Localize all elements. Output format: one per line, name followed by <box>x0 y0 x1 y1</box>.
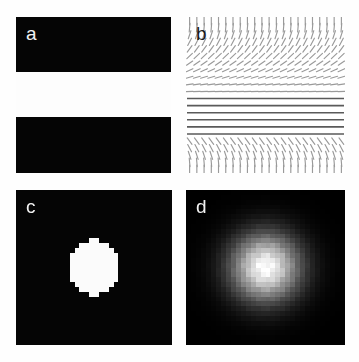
panel-b-label: b <box>196 24 207 43</box>
panel-a: a <box>16 17 171 173</box>
panel-a-label: a <box>26 24 37 43</box>
panel-b-vector-field <box>186 17 345 173</box>
panel-c-label: c <box>26 197 36 216</box>
panel-a-bar-top <box>16 17 171 72</box>
figure-canvas: a b c d <box>0 0 359 362</box>
panel-c-binary-blob <box>16 190 172 345</box>
panel-c: c <box>16 190 172 345</box>
panel-d: d <box>186 190 345 345</box>
panel-a-bar-bottom <box>16 117 171 173</box>
panel-d-label: d <box>196 197 207 216</box>
panel-d-gaussian-blob <box>186 190 345 345</box>
panel-b: b <box>186 17 345 173</box>
